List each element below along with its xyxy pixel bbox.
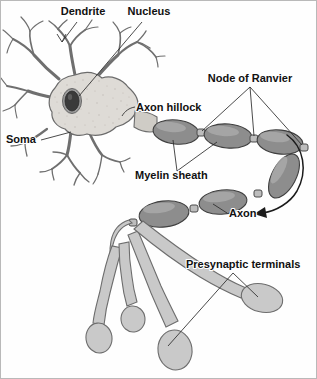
- myelin-segment: [203, 122, 253, 150]
- label-nucleus: Nucleus: [128, 5, 171, 17]
- neuron-illustration: Dendrite Nucleus Node of Ranvier Axon hi…: [1, 1, 317, 379]
- node-of-ranvier: [300, 144, 308, 151]
- label-soma: Soma: [6, 133, 37, 145]
- label-dendrite: Dendrite: [61, 5, 106, 17]
- myelin-segment: [152, 118, 200, 147]
- terminal-bulb: [120, 305, 147, 333]
- nucleolus: [68, 94, 72, 100]
- node-of-ranvier: [254, 190, 262, 197]
- terminal-bulb: [84, 321, 114, 354]
- label-axon: Axon: [229, 207, 257, 219]
- neuron-diagram-figure: Dendrite Nucleus Node of Ranvier Axon hi…: [0, 0, 317, 379]
- nucleus: [65, 91, 79, 111]
- myelin-segment: [262, 149, 306, 203]
- soma-shape: [49, 73, 138, 136]
- label-myelin-sheath: Myelin sheath: [135, 169, 208, 181]
- myelin-segment: [256, 127, 305, 156]
- node-of-ranvier: [190, 205, 198, 212]
- terminal-bulb: [155, 328, 194, 372]
- label-axon-hillock: Axon hillock: [136, 101, 202, 113]
- presynaptic-terminal-group: [84, 220, 286, 372]
- label-node-of-ranvier: Node of Ranvier: [208, 72, 293, 84]
- label-presynaptic-terminals: Presynaptic terminals: [186, 258, 300, 270]
